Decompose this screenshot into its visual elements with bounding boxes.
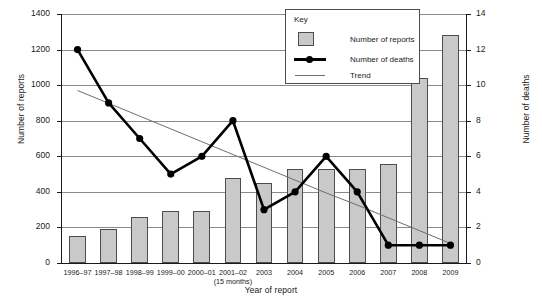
data-point-marker bbox=[136, 135, 143, 142]
y-axis-right-line bbox=[466, 14, 467, 263]
y-tick-label: 1000 bbox=[20, 80, 50, 89]
y-tick-label: 1400 bbox=[20, 9, 50, 18]
y-axis-left-line bbox=[61, 14, 62, 263]
legend-item-label: Number of deaths bbox=[350, 55, 414, 64]
y-tick-label: 1200 bbox=[20, 45, 50, 54]
legend-box: Key Number of reports Number of deaths T… bbox=[285, 9, 420, 84]
data-point-marker bbox=[167, 170, 174, 177]
y2-tick-label: 0 bbox=[476, 258, 502, 267]
y2-tick-mark bbox=[466, 263, 471, 264]
data-point-marker bbox=[385, 242, 392, 249]
chart-figure: Number of reports Number of deaths Year … bbox=[0, 0, 542, 302]
y2-tick-label: 4 bbox=[476, 187, 502, 196]
y-tick-label: 400 bbox=[20, 187, 50, 196]
data-point-marker bbox=[74, 46, 81, 53]
y-tick-label: 0 bbox=[20, 258, 50, 267]
data-point-marker bbox=[229, 117, 236, 124]
y2-tick-label: 8 bbox=[476, 116, 502, 125]
data-point-marker bbox=[447, 242, 454, 249]
data-point-marker bbox=[198, 153, 205, 160]
y-tick-label: 600 bbox=[20, 151, 50, 160]
data-point-marker bbox=[105, 99, 112, 106]
x-tick-label: 2009 bbox=[429, 268, 472, 277]
legend-title: Key bbox=[294, 15, 308, 24]
legend-marker-icon bbox=[306, 56, 313, 63]
legend-swatch-icon bbox=[298, 32, 314, 46]
data-point-marker bbox=[416, 242, 423, 249]
x-axis-line bbox=[62, 263, 466, 264]
y2-tick-label: 12 bbox=[476, 45, 502, 54]
y-axis-right-title: Number of deaths bbox=[521, 54, 531, 164]
y2-tick-label: 14 bbox=[476, 9, 502, 18]
legend-item-label: Number of reports bbox=[350, 35, 414, 44]
data-point-marker bbox=[323, 153, 330, 160]
y-tick-label: 200 bbox=[20, 222, 50, 231]
trend-line bbox=[78, 90, 451, 243]
x-tick-sublabel: (15 months) bbox=[211, 277, 254, 286]
y-axis-left-title: Number of reports bbox=[16, 54, 26, 164]
data-point-marker bbox=[260, 206, 267, 213]
legend-trend-icon bbox=[295, 75, 325, 76]
legend-item-label: Trend bbox=[350, 71, 371, 80]
data-point-marker bbox=[291, 188, 298, 195]
y2-tick-label: 2 bbox=[476, 222, 502, 231]
x-axis-title: Year of report bbox=[0, 285, 542, 295]
data-point-marker bbox=[354, 188, 361, 195]
y2-tick-label: 6 bbox=[476, 151, 502, 160]
y2-tick-label: 10 bbox=[476, 80, 502, 89]
y-tick-label: 800 bbox=[20, 116, 50, 125]
